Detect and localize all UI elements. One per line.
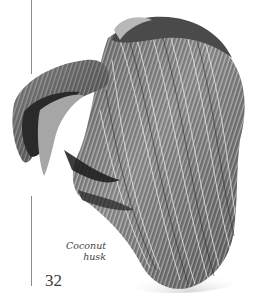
figure-caption: Coconut husk (66, 240, 106, 262)
caption-line-2: husk (66, 251, 106, 262)
page-number: 32 (45, 271, 62, 291)
caption-line-1: Coconut (66, 240, 106, 251)
coconut-husk-photo (0, 0, 266, 306)
